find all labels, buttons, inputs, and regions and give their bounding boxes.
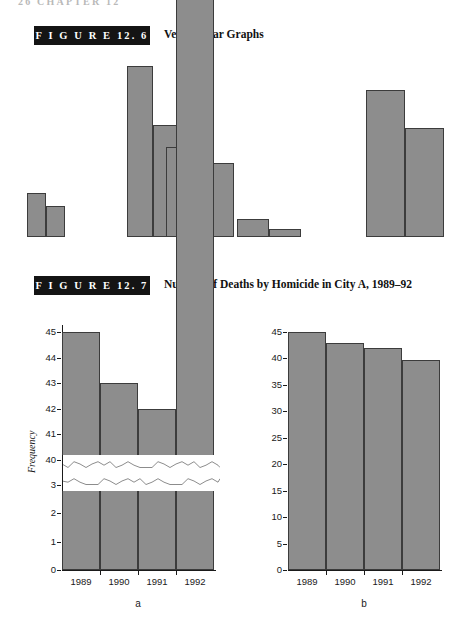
y-tick (283, 464, 287, 465)
y-tick (283, 438, 287, 439)
y-tick (283, 411, 287, 412)
figure-label-box-12-7: F I G U R E 12. 7 (34, 276, 150, 295)
bar-g2-left (127, 66, 153, 237)
y-tick-label: 0 (254, 564, 282, 575)
chart-panel-b: 4540353025201510501989199019911992b (230, 305, 474, 615)
y-tick-label: 10 (254, 511, 282, 522)
y-tick-label: 45 (28, 326, 56, 337)
y-axis-line-break (62, 455, 63, 491)
x-tick-label-1992: 1992 (172, 576, 218, 587)
figure-12-6-plot (0, 0, 474, 250)
y-tick (283, 358, 287, 359)
y-tick-label: 35 (254, 379, 282, 390)
y-tick (283, 517, 287, 518)
y-tick-label: 25 (254, 432, 282, 443)
y-tick-label: 1 (28, 536, 56, 547)
y-tick-label: 15 (254, 485, 282, 496)
y-tick (57, 409, 61, 410)
bar-1991 (364, 348, 402, 570)
y-tick-label: 2 (28, 507, 56, 518)
x-axis-line (288, 570, 442, 571)
y-tick-label: 40 (254, 352, 282, 363)
y-axis-title: Frequency (26, 431, 37, 473)
y-tick-label: 3 (28, 479, 56, 490)
y-tick-label: 5 (254, 538, 282, 549)
bar-g4-left (237, 219, 269, 237)
bar-1990 (100, 383, 138, 570)
bar-g1-left (27, 193, 46, 237)
y-tick (57, 383, 61, 384)
textbook-page: 26 CHAPTER 12 F I G U R E 12. 6 Vertical… (0, 0, 474, 621)
y-tick (57, 434, 61, 435)
bar-1992 (402, 360, 440, 570)
x-tick (176, 571, 177, 575)
bar-g5-right (405, 128, 444, 237)
y-tick-label: 20 (254, 458, 282, 469)
y-tick-label: 42 (28, 403, 56, 414)
bar-1991 (138, 409, 176, 570)
y-tick (283, 544, 287, 545)
y-tick-label: 44 (28, 352, 56, 363)
bar-1990 (326, 343, 364, 570)
y-tick (57, 460, 61, 461)
y-tick (57, 542, 61, 543)
x-tick (364, 571, 365, 575)
y-tick (283, 332, 287, 333)
figure-label-text-12-7: F I G U R E 12. 7 (34, 276, 150, 295)
y-tick (57, 485, 61, 486)
x-tick (326, 571, 327, 575)
x-tick (100, 571, 101, 575)
y-tick (57, 332, 61, 333)
bar-g5-left (366, 90, 405, 237)
y-tick (57, 513, 61, 514)
y-tick (57, 570, 61, 571)
figure-caption-12-7: F I G U R E 12. 7 Number of Deaths by Ho… (34, 276, 454, 295)
chart-panel-a: 45444342414032101989199019911992aFrequen… (0, 305, 230, 615)
bar-g1-right (46, 206, 65, 237)
x-tick (402, 571, 403, 575)
y-tick (283, 491, 287, 492)
y-tick-label: 30 (254, 405, 282, 416)
y-tick-label: 43 (28, 377, 56, 388)
y-tick-label: 45 (254, 326, 282, 337)
bar-1989 (62, 332, 100, 570)
bar-g4-right (269, 229, 301, 237)
y-tick-label: 0 (28, 564, 56, 575)
y-tick (57, 358, 61, 359)
panel-letter-a: a (62, 598, 214, 609)
y-tick (283, 385, 287, 386)
x-tick-label-1992: 1992 (398, 576, 444, 587)
x-tick (138, 571, 139, 575)
panel-letter-b: b (288, 598, 440, 609)
bar-1992 (176, 0, 214, 570)
bar-1989 (288, 332, 326, 570)
y-tick (283, 570, 287, 571)
x-axis-line (62, 570, 216, 571)
